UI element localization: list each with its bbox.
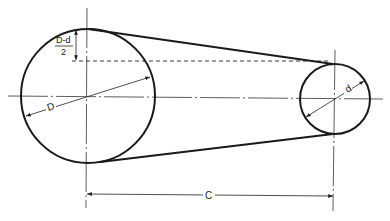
small-pulley-vertical-centerline xyxy=(333,50,335,211)
offset-numerator-label: D-d xyxy=(56,35,71,45)
horizontal-centerline xyxy=(8,96,383,99)
offset-denominator-label: 2 xyxy=(61,47,66,57)
center-distance-label: C xyxy=(205,190,212,201)
belt-drive-diagram: D-d 2 D d C xyxy=(0,0,390,221)
belt-lower-span xyxy=(100,134,333,162)
large-pulley-vertical-centerline xyxy=(86,8,87,208)
belt-upper-span xyxy=(88,29,333,64)
